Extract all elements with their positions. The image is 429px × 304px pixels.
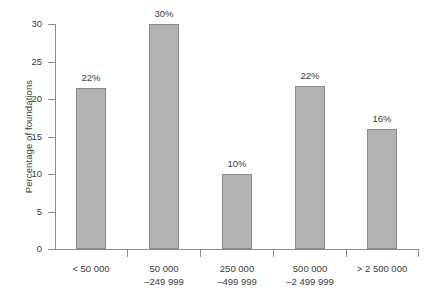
- x-axis-label-5: > 2 500 000: [337, 262, 427, 275]
- y-tick-30: [48, 24, 55, 25]
- bar-value-label-2: 30%: [139, 8, 189, 19]
- x-axis-label-4-line2: –2 499 999: [265, 275, 355, 288]
- y-tick-25: [48, 62, 55, 63]
- y-tick-label-0: 0: [2, 243, 42, 254]
- y-tick-label-5: 5: [2, 206, 42, 217]
- y-tick-label-30: 30: [2, 18, 42, 29]
- y-tick-20: [48, 99, 55, 100]
- x-tick-separator-2: [200, 250, 201, 257]
- bar-category-1: [76, 88, 106, 249]
- bar-category-4: [295, 86, 325, 249]
- y-tick-15: [48, 137, 55, 138]
- x-tick-separator-5: [418, 250, 419, 257]
- y-tick-label-20: 20: [2, 93, 42, 104]
- bar-value-label-1: 22%: [66, 72, 116, 83]
- bar-category-3: [222, 174, 252, 249]
- bar-value-label-5: 16%: [357, 113, 407, 124]
- y-axis-line: [55, 24, 56, 250]
- bar-chart-figure: Percentage of foundations 30 25 20 15 10…: [0, 0, 429, 304]
- y-tick-0: [48, 249, 55, 250]
- bar-value-label-4: 22%: [285, 70, 335, 81]
- bar-category-2: [149, 24, 179, 249]
- y-tick-label-10: 10: [2, 168, 42, 179]
- bar-category-5: [367, 129, 397, 249]
- x-axis-line: [55, 249, 419, 250]
- bar-value-label-3: 10%: [212, 158, 262, 169]
- y-tick-5: [48, 212, 55, 213]
- y-tick-10: [48, 174, 55, 175]
- x-tick-separator-1: [127, 250, 128, 257]
- x-tick-separator-4: [346, 250, 347, 257]
- x-axis-label-5-line1: > 2 500 000: [337, 262, 427, 275]
- y-tick-label-25: 25: [2, 56, 42, 67]
- x-tick-separator-3: [273, 250, 274, 257]
- y-tick-label-15: 15: [2, 131, 42, 142]
